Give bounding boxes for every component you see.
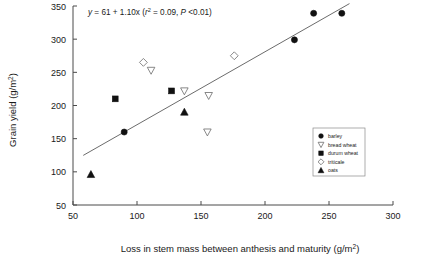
y-tick-label: 350: [51, 2, 66, 12]
regression-equation-annotation: y = 61 + 1.10x (r2 = 0.09, P <0.01): [87, 7, 212, 17]
legend-label-bread-wheat: bread wheat: [328, 142, 357, 148]
data-point-barley: [121, 129, 127, 135]
data-point-barley: [291, 37, 297, 43]
x-tick-label: 150: [193, 211, 208, 221]
legend-marker-durum-wheat: [319, 151, 323, 155]
x-tick-label: 100: [129, 211, 144, 221]
legend-label-oats: oats: [328, 167, 338, 173]
legend-label-durum-wheat: durum wheat: [328, 150, 359, 156]
tick-labels: 5010015020025030050100150200250300350: [51, 2, 401, 222]
y-tick-label: 250: [51, 68, 66, 78]
x-tick-label: 50: [68, 211, 78, 221]
data-point-durum-wheat: [169, 88, 175, 94]
data-point-durum-wheat: [112, 96, 118, 102]
scatter-plot-figure: 5010015020025030050100150200250300350 y …: [0, 0, 428, 259]
y-tick-label: 300: [51, 35, 66, 45]
data-point-bread-wheat: [204, 129, 212, 136]
data-point-bread-wheat: [147, 67, 155, 74]
y-tick-label: 150: [51, 134, 66, 144]
y-tick-label: 50: [56, 201, 66, 211]
y-axis-title: Grain yield (g/m2): [7, 73, 19, 147]
data-point-triticale: [230, 52, 238, 60]
data-point-bread-wheat: [181, 88, 189, 95]
data-point-oats: [181, 108, 189, 115]
x-tick-label: 250: [321, 211, 336, 221]
legend-label-barley: barley: [328, 133, 343, 139]
x-axis-title: Loss in stem mass between anthesis and m…: [121, 243, 360, 255]
data-point-barley: [339, 10, 345, 16]
legend-marker-barley: [319, 134, 324, 139]
y-tick-label: 100: [51, 167, 66, 177]
plot-canvas: 5010015020025030050100150200250300350 y …: [0, 0, 428, 259]
data-point-barley: [311, 10, 317, 16]
y-tick-label: 200: [51, 101, 66, 111]
x-tick-label: 300: [385, 211, 400, 221]
data-point-triticale: [139, 58, 147, 66]
data-points: [87, 10, 345, 177]
data-point-bread-wheat: [205, 93, 213, 100]
x-tick-label: 200: [257, 211, 272, 221]
data-point-oats: [87, 171, 95, 178]
legend-label-triticale: triticale: [328, 159, 345, 165]
legend: barleybread wheatdurum wheattriticaleoat…: [313, 128, 365, 176]
